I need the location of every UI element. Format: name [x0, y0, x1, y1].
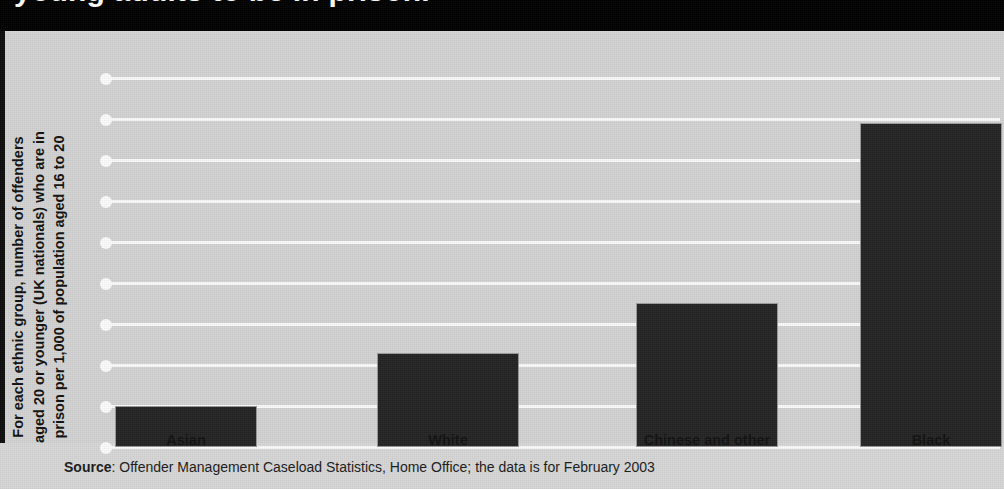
bar-black: [860, 123, 1002, 447]
bar-series: [100, 53, 1000, 447]
bar-chinese-and-other: [636, 303, 778, 447]
title-band: young adults to be in prison.: [0, 0, 1004, 31]
x-axis-label-black: Black: [820, 432, 1004, 448]
x-axis-label-white: White: [337, 432, 559, 448]
source-label: Source: [64, 459, 111, 475]
source-text: : Offender Management Caseload Statistic…: [111, 459, 654, 475]
page-title: young adults to be in prison.: [14, 0, 430, 8]
x-axis-label-chinese-and-other: Chinese and other: [596, 432, 818, 448]
x-axis-category-labels: AsianWhiteChinese and otherBlack: [100, 432, 1004, 454]
x-axis-label-asian: Asian: [75, 432, 297, 448]
source-note: Source: Offender Management Caseload Sta…: [64, 459, 655, 475]
y-axis-label: For each ethnic group, number of offende…: [8, 85, 72, 489]
plot-region: [100, 53, 1000, 447]
chart-area: For each ethnic group, number of offende…: [5, 33, 1004, 443]
left-border-strip: [0, 31, 5, 443]
y-axis-label-text: For each ethnic group, number of offende…: [8, 131, 70, 443]
